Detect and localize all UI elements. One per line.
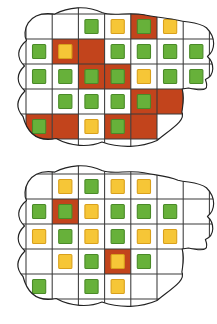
marker-square-green[interactable]	[111, 205, 124, 219]
marker-square-yellow[interactable]	[111, 255, 124, 269]
marker-square-green[interactable]	[111, 45, 124, 59]
marker-square-green[interactable]	[85, 180, 98, 194]
marker-square-green[interactable]	[85, 280, 98, 294]
marker-square-yellow[interactable]	[59, 45, 72, 59]
bottom-blob-panel	[0, 160, 217, 324]
top-blob-diagram	[0, 0, 217, 162]
marker-square-green[interactable]	[33, 280, 46, 294]
marker-square-yellow[interactable]	[111, 180, 124, 194]
marker-square-green[interactable]	[59, 230, 72, 244]
marker-square-yellow[interactable]	[137, 70, 150, 84]
marker-square-green[interactable]	[59, 95, 72, 109]
marker-square-yellow[interactable]	[33, 230, 46, 244]
marker-square-green[interactable]	[33, 205, 46, 219]
marker-square-green[interactable]	[111, 120, 124, 134]
top-blob-panel	[0, 0, 217, 162]
marker-square-green[interactable]	[33, 70, 46, 84]
grid-cell-highlight[interactable]	[52, 114, 78, 139]
marker-square-yellow[interactable]	[111, 20, 124, 34]
grid-cell-highlight[interactable]	[131, 114, 157, 139]
bottom-blob-diagram	[0, 160, 217, 322]
marker-square-green[interactable]	[164, 205, 177, 219]
marker-square-yellow[interactable]	[137, 230, 150, 244]
marker-square-yellow[interactable]	[85, 205, 98, 219]
marker-square-green[interactable]	[33, 45, 46, 59]
marker-square-green[interactable]	[85, 70, 98, 84]
marker-square-green[interactable]	[33, 120, 46, 134]
marker-square-green[interactable]	[85, 255, 98, 269]
marker-square-green[interactable]	[137, 205, 150, 219]
marker-square-green[interactable]	[137, 45, 150, 59]
marker-square-yellow[interactable]	[85, 120, 98, 134]
marker-square-green[interactable]	[59, 205, 72, 219]
marker-square-green[interactable]	[164, 45, 177, 59]
marker-square-green[interactable]	[190, 45, 203, 59]
marker-square-green[interactable]	[111, 95, 124, 109]
marker-square-yellow[interactable]	[137, 180, 150, 194]
marker-square-green[interactable]	[164, 70, 177, 84]
marker-square-green[interactable]	[137, 255, 150, 269]
marker-square-yellow[interactable]	[111, 280, 124, 294]
grid-cell-highlight[interactable]	[78, 39, 104, 64]
marker-square-green[interactable]	[137, 20, 150, 34]
figure-root	[0, 0, 217, 324]
marker-square-green[interactable]	[137, 95, 150, 109]
marker-square-yellow[interactable]	[59, 180, 72, 194]
marker-square-green[interactable]	[111, 70, 124, 84]
marker-square-green[interactable]	[59, 70, 72, 84]
marker-square-yellow[interactable]	[164, 20, 177, 34]
marker-square-yellow[interactable]	[85, 230, 98, 244]
marker-square-yellow[interactable]	[59, 255, 72, 269]
marker-square-green[interactable]	[85, 20, 98, 34]
grid-cell-highlight[interactable]	[157, 89, 183, 114]
marker-square-green[interactable]	[85, 95, 98, 109]
marker-square-green[interactable]	[190, 70, 203, 84]
marker-square-green[interactable]	[111, 230, 124, 244]
marker-square-yellow[interactable]	[164, 230, 177, 244]
